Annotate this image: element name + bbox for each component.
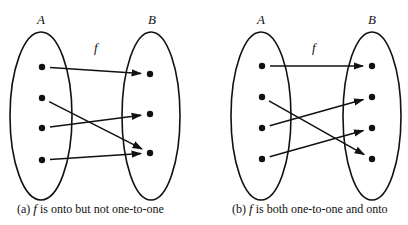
domain-element-dot (259, 63, 265, 69)
domain-element-dot (259, 94, 265, 100)
set-label-a-codomain: B (148, 13, 156, 26)
domain-element-dot (39, 64, 45, 70)
caption-a-fn: f (33, 201, 37, 216)
caption-a-prefix: (a) (17, 202, 30, 216)
set-label-a-domain: A (37, 13, 45, 26)
domain-element-dot (39, 157, 45, 163)
domain-set-ellipse (231, 32, 291, 200)
function-mapping-diagram (0, 0, 408, 225)
domain-set-ellipse (10, 32, 72, 200)
mapping-arrow (50, 154, 141, 160)
codomain-set-ellipse (343, 32, 401, 200)
domain-element-dot (259, 156, 265, 162)
caption-b-prefix: (b) (232, 202, 246, 216)
mapping-arrow (270, 99, 364, 125)
mapping-arrow (269, 101, 364, 155)
caption-b-fn: f (249, 201, 253, 216)
function-label-b: f (312, 41, 316, 54)
set-label-b-domain: A (257, 13, 265, 26)
codomain-element-dot (147, 111, 153, 117)
domain-element-dot (259, 125, 265, 131)
panel-a-onto-not-injective (10, 32, 180, 200)
codomain-element-dot (369, 156, 375, 162)
caption-b: (b) f is both one-to-one and onto (232, 203, 388, 215)
domain-element-dot (39, 95, 45, 101)
caption-a-text: is onto but not one-to-one (40, 202, 164, 216)
mapping-arrow (270, 130, 364, 156)
codomain-element-dot (147, 71, 153, 77)
caption-a: (a) f is onto but not one-to-one (17, 203, 164, 215)
codomain-element-dot (369, 63, 375, 69)
codomain-element-dot (147, 150, 153, 156)
panel-b-bijective (231, 32, 401, 200)
codomain-element-dot (369, 94, 375, 100)
function-label-a: f (94, 41, 98, 54)
set-label-b-codomain: B (368, 13, 376, 26)
caption-b-text: is both one-to-one and onto (256, 202, 388, 216)
domain-element-dot (39, 125, 45, 131)
codomain-element-dot (369, 125, 375, 131)
